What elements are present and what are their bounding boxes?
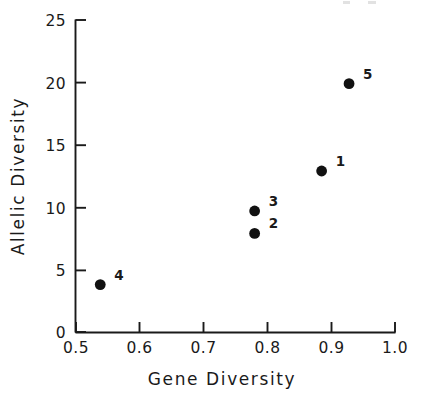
y-axis-title: Allelic Diversity — [8, 97, 28, 256]
data-point-label-1: 1 — [336, 153, 345, 169]
y-axis-ticks — [76, 20, 87, 332]
x-tick-label-0.9: 0.9 — [319, 339, 345, 357]
data-point-3[interactable] — [249, 206, 260, 217]
data-point-label-2: 2 — [269, 215, 278, 231]
y-tick-label-15: 15 — [45, 137, 66, 155]
data-point-5[interactable] — [344, 78, 355, 89]
x-tick-labels: 0.5 0.6 0.7 0.8 0.9 1.0 — [63, 339, 408, 357]
data-point-label-5: 5 — [363, 66, 372, 82]
data-point-2[interactable] — [249, 228, 260, 239]
y-tick-label-5: 5 — [56, 262, 66, 280]
x-tick-label-1.0: 1.0 — [382, 339, 408, 357]
y-tick-label-25: 25 — [45, 12, 66, 30]
y-tick-label-20: 20 — [45, 75, 66, 93]
plot-area: 25 20 15 10 5 0 0.5 0.6 0.7 0.8 0.9 1.0 … — [0, 0, 422, 400]
x-axis-ticks — [76, 322, 395, 333]
data-point-4[interactable] — [95, 279, 106, 290]
data-points-layer: 12345 — [95, 66, 373, 290]
data-point-label-3: 3 — [269, 193, 278, 209]
x-tick-label-0.5: 0.5 — [63, 339, 89, 357]
scatter-chart: 25 20 15 10 5 0 0.5 0.6 0.7 0.8 0.9 1.0 … — [0, 0, 422, 400]
y-tick-label-10: 10 — [45, 200, 66, 218]
x-tick-label-0.8: 0.8 — [255, 339, 281, 357]
x-axis-title: Gene Diversity — [148, 369, 296, 389]
x-tick-label-0.7: 0.7 — [191, 339, 217, 357]
data-point-1[interactable] — [316, 166, 327, 177]
data-point-label-4: 4 — [114, 267, 123, 283]
y-tick-labels: 25 20 15 10 5 0 — [45, 12, 66, 342]
x-tick-label-0.6: 0.6 — [127, 339, 153, 357]
